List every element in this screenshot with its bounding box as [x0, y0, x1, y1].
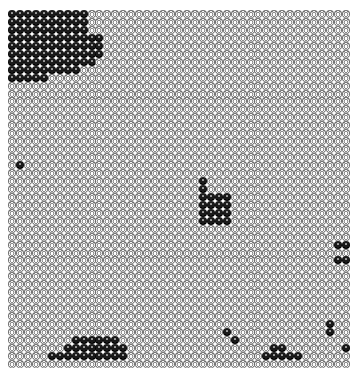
white-stone[interactable]: [8, 145, 16, 153]
white-stone[interactable]: [294, 74, 302, 82]
white-stone[interactable]: [199, 34, 207, 42]
black-stone[interactable]: [72, 336, 80, 344]
white-stone[interactable]: [254, 66, 262, 74]
white-stone[interactable]: [103, 153, 111, 161]
white-stone[interactable]: [294, 296, 302, 304]
white-stone[interactable]: [88, 201, 96, 209]
white-stone[interactable]: [143, 137, 151, 145]
white-stone[interactable]: [286, 10, 294, 18]
black-stone[interactable]: [103, 352, 111, 360]
black-stone[interactable]: [207, 217, 215, 225]
white-stone[interactable]: [183, 241, 191, 249]
white-stone[interactable]: [159, 18, 167, 26]
white-stone[interactable]: [286, 129, 294, 137]
white-stone[interactable]: [88, 90, 96, 98]
white-stone[interactable]: [127, 18, 135, 26]
white-stone[interactable]: [159, 50, 167, 58]
white-stone[interactable]: [135, 137, 143, 145]
black-stone[interactable]: [8, 26, 16, 34]
white-stone[interactable]: [95, 129, 103, 137]
white-stone[interactable]: [95, 328, 103, 336]
white-stone[interactable]: [199, 169, 207, 177]
white-stone[interactable]: [167, 193, 175, 201]
white-stone[interactable]: [254, 209, 262, 217]
white-stone[interactable]: [215, 225, 223, 233]
white-stone[interactable]: [16, 145, 24, 153]
white-stone[interactable]: [191, 42, 199, 50]
white-stone[interactable]: [278, 113, 286, 121]
white-stone[interactable]: [16, 113, 24, 121]
white-stone[interactable]: [326, 217, 334, 225]
white-stone[interactable]: [72, 105, 80, 113]
white-stone[interactable]: [207, 296, 215, 304]
white-stone[interactable]: [199, 304, 207, 312]
white-stone[interactable]: [326, 225, 334, 233]
white-stone[interactable]: [270, 233, 278, 241]
white-stone[interactable]: [24, 312, 32, 320]
white-stone[interactable]: [247, 137, 255, 145]
white-stone[interactable]: [32, 177, 40, 185]
white-stone[interactable]: [310, 280, 318, 288]
white-stone[interactable]: [159, 26, 167, 34]
white-stone[interactable]: [95, 296, 103, 304]
white-stone[interactable]: [183, 320, 191, 328]
white-stone[interactable]: [95, 304, 103, 312]
white-stone[interactable]: [88, 256, 96, 264]
white-stone[interactable]: [95, 113, 103, 121]
white-stone[interactable]: [223, 137, 231, 145]
white-stone[interactable]: [24, 249, 32, 257]
white-stone[interactable]: [183, 177, 191, 185]
white-stone[interactable]: [207, 82, 215, 90]
white-stone[interactable]: [151, 296, 159, 304]
white-stone[interactable]: [239, 328, 247, 336]
white-stone[interactable]: [16, 280, 24, 288]
white-stone[interactable]: [326, 153, 334, 161]
white-stone[interactable]: [64, 169, 72, 177]
white-stone[interactable]: [270, 153, 278, 161]
white-stone[interactable]: [16, 360, 24, 368]
white-stone[interactable]: [48, 145, 56, 153]
white-stone[interactable]: [56, 296, 64, 304]
white-stone[interactable]: [119, 249, 127, 257]
white-stone[interactable]: [191, 34, 199, 42]
white-stone[interactable]: [183, 264, 191, 272]
white-stone[interactable]: [231, 312, 239, 320]
white-stone[interactable]: [167, 328, 175, 336]
white-stone[interactable]: [191, 304, 199, 312]
black-stone[interactable]: [32, 42, 40, 50]
white-stone[interactable]: [167, 97, 175, 105]
white-stone[interactable]: [334, 217, 342, 225]
white-stone[interactable]: [127, 241, 135, 249]
white-stone[interactable]: [159, 137, 167, 145]
white-stone[interactable]: [247, 169, 255, 177]
white-stone[interactable]: [80, 272, 88, 280]
white-stone[interactable]: [159, 169, 167, 177]
white-stone[interactable]: [119, 320, 127, 328]
white-stone[interactable]: [318, 169, 326, 177]
white-stone[interactable]: [72, 360, 80, 368]
white-stone[interactable]: [342, 249, 350, 257]
white-stone[interactable]: [24, 201, 32, 209]
white-stone[interactable]: [151, 10, 159, 18]
white-stone[interactable]: [40, 105, 48, 113]
white-stone[interactable]: [215, 26, 223, 34]
white-stone[interactable]: [183, 113, 191, 121]
white-stone[interactable]: [143, 161, 151, 169]
white-stone[interactable]: [247, 121, 255, 129]
white-stone[interactable]: [191, 50, 199, 58]
white-stone[interactable]: [127, 90, 135, 98]
white-stone[interactable]: [254, 320, 262, 328]
white-stone[interactable]: [167, 42, 175, 50]
white-stone[interactable]: [262, 58, 270, 66]
white-stone[interactable]: [247, 113, 255, 121]
black-stone[interactable]: [223, 193, 231, 201]
white-stone[interactable]: [167, 225, 175, 233]
white-stone[interactable]: [24, 113, 32, 121]
white-stone[interactable]: [24, 90, 32, 98]
black-stone[interactable]: [24, 18, 32, 26]
white-stone[interactable]: [119, 272, 127, 280]
white-stone[interactable]: [159, 121, 167, 129]
white-stone[interactable]: [24, 105, 32, 113]
white-stone[interactable]: [334, 304, 342, 312]
white-stone[interactable]: [183, 304, 191, 312]
